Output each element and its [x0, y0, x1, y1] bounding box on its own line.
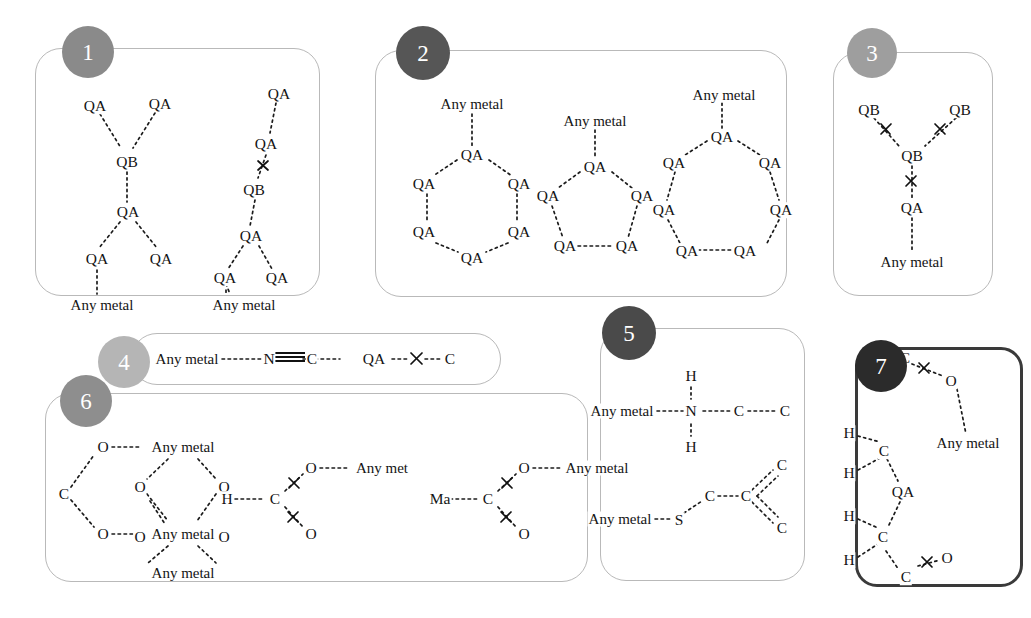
atom-qa: QA [85, 251, 109, 267]
atom-qa: QA [148, 96, 172, 112]
atom-any-metal: Any metal [692, 88, 757, 103]
atom-any-met: Any met [355, 461, 409, 476]
atom-qa: QA [733, 243, 757, 259]
panel-6 [45, 393, 588, 582]
atom-qb: QB [900, 148, 924, 164]
panel-badge-6: 6 [60, 375, 112, 427]
atom-o: O [304, 526, 317, 542]
atom-qa: QA [412, 224, 436, 240]
atom-o: O [133, 529, 146, 545]
panel-badge-1: 1 [62, 26, 114, 78]
atom-qa: QA [536, 188, 560, 204]
atom-o: O [944, 373, 957, 389]
panel-badge-4: 4 [98, 336, 150, 388]
atom-qa: QA [460, 250, 484, 266]
atom-qa: QA [267, 86, 291, 102]
atom-o: O [304, 460, 317, 476]
atom-qa: QA [507, 224, 531, 240]
atom-c: C [779, 403, 791, 419]
atom-qb: QB [242, 182, 266, 198]
atom-qa: QA [652, 202, 676, 218]
atom-qb: QB [948, 102, 972, 118]
atom-h: H [684, 368, 697, 384]
atom-o: O [96, 526, 109, 542]
atom-any-metal: Any metal [151, 527, 216, 542]
atom-qa: QA [630, 188, 654, 204]
atom-qa: QA [758, 155, 782, 171]
atom-qa: QA [900, 200, 924, 216]
atom-n: N [262, 351, 275, 367]
atom-c: C [58, 486, 70, 502]
atom-h: H [842, 425, 855, 441]
atom-c: C [306, 351, 318, 367]
atom-qa: QA [615, 238, 639, 254]
atom-o: O [517, 460, 530, 476]
atom-qa: QA [553, 238, 577, 254]
atom-o: O [517, 526, 530, 542]
atom-c: C [733, 403, 745, 419]
atom-qa: QA [675, 243, 699, 259]
atom-n: N [684, 403, 697, 419]
panel-5 [600, 328, 805, 581]
atom-any-metal: Any metal [70, 298, 135, 313]
atom-qa: QA [460, 147, 484, 163]
atom-ma: Ma [429, 491, 452, 507]
atom-any-metal: Any metal [588, 512, 653, 527]
atom-qa: QA [583, 159, 607, 175]
panel-badge-2: 2 [396, 26, 450, 80]
atom-h: H [842, 552, 855, 568]
atom-s: S [674, 512, 685, 528]
atom-any-metal: Any metal [155, 352, 220, 367]
atom-qb: QB [115, 154, 139, 170]
atom-c: C [776, 457, 788, 473]
atom-any-metal: Any metal [151, 566, 216, 581]
atom-c: C [444, 351, 456, 367]
atom-o: O [96, 439, 109, 455]
atom-qa: QA [149, 251, 173, 267]
atom-c: C [900, 569, 912, 585]
figure-canvas: 1 2 3 4 5 6 7 .d{stroke:#1b1b1b;stroke-w… [0, 0, 1031, 618]
atom-any-metal: Any metal [212, 298, 277, 313]
atom-qa: QA [239, 228, 263, 244]
atom-qa: QA [662, 155, 686, 171]
atom-any-metal: Any metal [590, 404, 655, 419]
atom-h: H [842, 465, 855, 481]
atom-qa: QA [891, 484, 915, 500]
atom-qa: QA [265, 270, 289, 286]
atom-c: C [878, 443, 890, 459]
atom-qa: QA [412, 176, 436, 192]
panel-badge-3: 3 [847, 28, 897, 78]
atom-c: C [704, 488, 716, 504]
atom-c: C [482, 491, 494, 507]
atom-qa: QA [116, 204, 140, 220]
atom-qa: QA [769, 202, 793, 218]
atom-qa: QA [83, 98, 107, 114]
atom-o: O [133, 479, 146, 495]
atom-any-metal: Any metal [151, 440, 216, 455]
atom-qa: QA [362, 351, 386, 367]
atom-qa: QA [710, 129, 734, 145]
atom-c: C [269, 491, 281, 507]
atom-any-metal: Any metal [936, 436, 1001, 451]
atom-any-metal: Any metal [565, 461, 630, 476]
atom-h: H [684, 439, 697, 455]
atom-any-metal: Any metal [880, 255, 945, 270]
atom-c: C [877, 529, 889, 545]
atom-o: O [217, 529, 230, 545]
atom-qa: QA [213, 270, 237, 286]
panel-badge-7: 7 [855, 340, 907, 392]
atom-h: H [220, 491, 233, 507]
atom-c: C [740, 488, 752, 504]
atom-qa: QA [507, 176, 531, 192]
atom-qa: QA [254, 136, 278, 152]
atom-h: H [842, 508, 855, 524]
atom-any-metal: Any metal [563, 114, 628, 129]
triple-bond-glyph [275, 350, 305, 364]
atom-qb: QB [857, 102, 881, 118]
atom-any-metal: Any metal [440, 97, 505, 112]
atom-o: O [940, 550, 953, 566]
atom-c: C [776, 520, 788, 536]
panel-badge-5: 5 [602, 306, 656, 360]
